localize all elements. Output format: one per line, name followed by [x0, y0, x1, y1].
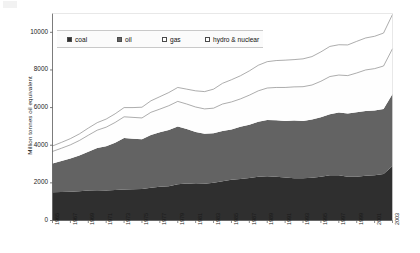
legend-swatch-icon — [117, 37, 122, 42]
x-tick-label: 1969 — [90, 213, 95, 225]
legend-item-oil[interactable]: oil — [117, 36, 132, 43]
x-tick-label: 1999 — [359, 213, 364, 225]
x-tick-label: 1989 — [269, 213, 274, 225]
x-tick-label: 1979 — [180, 213, 185, 225]
x-tick-label: 1965 — [55, 213, 60, 225]
legend-item-hydro-nuclear[interactable]: hydro & nuclear — [205, 36, 259, 43]
x-tick-label: 1977 — [162, 213, 167, 225]
legend-label: hydro & nuclear — [213, 36, 259, 43]
legend-item-coal[interactable]: coal — [67, 36, 87, 43]
x-tick-label: 1993 — [305, 213, 310, 225]
x-tick-label: 1981 — [198, 213, 203, 225]
chart-legend: coaloilgashydro & nuclear — [57, 30, 263, 48]
legend-label: coal — [75, 36, 87, 43]
x-tick-label: 2001 — [377, 213, 382, 225]
x-tick-label: 1997 — [341, 213, 346, 225]
x-tick-label: 1991 — [287, 213, 292, 225]
legend-swatch-icon — [162, 37, 167, 42]
x-tick-label: 1987 — [252, 213, 257, 225]
x-tick-label: 1967 — [73, 213, 78, 225]
legend-swatch-icon — [67, 37, 72, 42]
legend-label: gas — [170, 36, 181, 43]
chart-figure: Million tonnes oil equivalent 0200040006… — [0, 0, 420, 253]
x-tick-label: 1985 — [234, 213, 239, 225]
legend-label: oil — [125, 36, 132, 43]
legend-item-gas[interactable]: gas — [162, 36, 181, 43]
x-tick-label: 1971 — [108, 213, 113, 225]
x-tick-label: 1995 — [323, 213, 328, 225]
x-tick-label: 1975 — [144, 213, 149, 225]
x-tick-label: 1973 — [126, 213, 131, 225]
legend-swatch-icon — [205, 37, 210, 42]
x-tick-label: 1983 — [216, 213, 221, 225]
x-tick-label: 2003 — [395, 213, 400, 225]
